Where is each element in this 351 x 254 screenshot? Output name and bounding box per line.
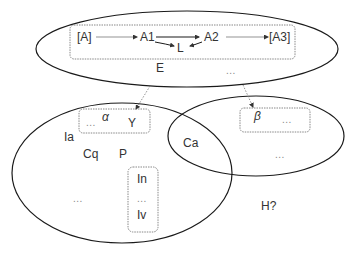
node-a1: A1: [140, 31, 155, 43]
left-ellipse: [12, 103, 232, 243]
in-box-ellipsis: ...: [137, 194, 147, 204]
node-a2: A2: [204, 31, 219, 43]
node-a: [A]: [77, 31, 92, 43]
right-ellipsis: ...: [275, 150, 285, 160]
node-a3: [A3]: [269, 31, 290, 43]
label-h: H?: [261, 200, 276, 212]
arrow-a1-to-l: [155, 42, 174, 46]
diagram-canvas: [A] A1 A2 [A3] L E ... ... α Y Ia Cq P .…: [0, 0, 351, 254]
label-p: P: [119, 148, 127, 160]
beta-box-ellipsis: ...: [282, 115, 292, 125]
node-l: L: [177, 42, 184, 54]
label-iv: Iv: [137, 209, 146, 221]
label-ia: Ia: [64, 131, 74, 143]
label-cq: Cq: [83, 148, 98, 160]
dotted-arrow-to-alpha: [136, 86, 150, 109]
beta-symbol: β: [254, 110, 261, 122]
left-ellipsis: ...: [73, 194, 83, 204]
label-in: In: [137, 173, 147, 185]
beta-box: [240, 108, 310, 132]
top-ellipse: [36, 11, 338, 87]
label-ca: Ca: [183, 137, 198, 149]
label-y: Y: [128, 117, 136, 129]
label-e: E: [156, 62, 164, 74]
top-ellipsis: ...: [226, 66, 236, 76]
alpha-box-ellipsis: ...: [86, 118, 96, 128]
arrow-a2-to-l: [190, 42, 202, 46]
alpha-symbol: α: [102, 111, 109, 123]
diagram-shapes: [0, 0, 351, 254]
